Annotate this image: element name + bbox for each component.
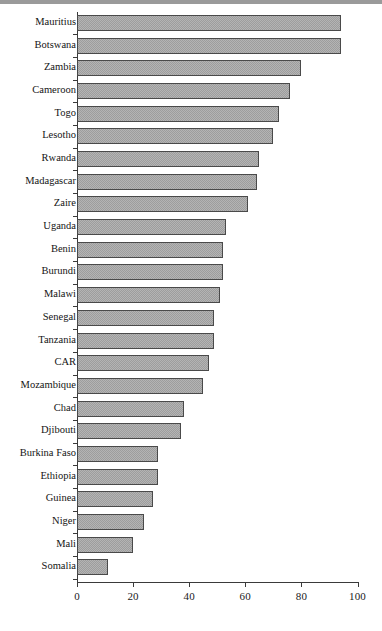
x-axis-line [77,582,358,583]
bar [77,491,153,507]
bar [77,219,226,235]
x-axis-tick-label: 100 [338,590,378,602]
bar [77,196,248,212]
y-axis-tick [73,329,77,330]
bar [77,174,257,190]
category-label: Zambia [44,62,76,73]
x-axis-tick-label: 60 [225,590,265,602]
category-label: Somalia [42,561,76,572]
plot-area: MauritiusBotswanaZambiaCameroonTogoLesot… [0,0,382,631]
y-axis-tick [73,533,77,534]
x-axis-tick [133,582,134,587]
x-axis-tick-label: 20 [113,590,153,602]
y-axis-tick [73,193,77,194]
bar [77,514,144,530]
category-label: Burundi [42,266,76,277]
y-axis-tick [73,420,77,421]
y-axis-tick [73,556,77,557]
bar [77,401,184,417]
bar [77,151,259,167]
category-label: Rwanda [42,153,76,164]
x-axis-tick [301,582,302,587]
bar [77,310,214,326]
bar [77,446,158,462]
bar [77,537,133,553]
category-label: Uganda [43,221,76,232]
bar [77,106,279,122]
y-axis-tick [73,125,77,126]
y-axis-tick [73,579,77,580]
y-axis-tick [73,102,77,103]
x-axis-tick [245,582,246,587]
bar [77,378,203,394]
bar [77,423,181,439]
y-axis-tick [73,80,77,81]
category-label: Chad [54,403,76,414]
bar [77,128,273,144]
y-axis-tick [73,375,77,376]
category-label: Malawi [44,289,76,300]
bar [77,333,214,349]
y-axis-tick [73,238,77,239]
bar [77,287,220,303]
x-axis-tick-label: 40 [169,590,209,602]
y-axis-tick [73,443,77,444]
category-label: Tanzania [38,335,76,346]
bar [77,242,223,258]
x-axis-tick [77,582,78,587]
bar [77,264,223,280]
y-axis-tick [73,148,77,149]
category-label: Zaire [54,198,76,209]
bar-chart: MauritiusBotswanaZambiaCameroonTogoLesot… [0,0,382,631]
y-axis-tick [73,216,77,217]
y-axis-tick [73,170,77,171]
category-label: Botswana [35,40,76,51]
category-label: Benin [51,244,76,255]
x-axis-tick-label: 0 [57,590,97,602]
category-label: Senegal [43,312,76,323]
bar [77,559,108,575]
y-axis-tick [73,57,77,58]
category-label: Madagascar [25,176,76,187]
category-label: Ethiopia [40,471,76,482]
category-label: Niger [52,516,76,527]
y-axis-tick [73,352,77,353]
category-label: Guinea [46,493,76,504]
x-axis-tick-label: 80 [281,590,321,602]
bar [77,15,341,31]
category-label: Mauritius [35,17,76,28]
category-label: CAR [54,357,76,368]
category-label: Lesotho [42,130,76,141]
y-axis-tick [73,397,77,398]
x-axis-tick [189,582,190,587]
y-axis-tick [73,465,77,466]
category-label: Burkina Faso [20,448,76,459]
bar [77,60,301,76]
category-label: Togo [55,108,76,119]
y-axis-tick [73,306,77,307]
bar [77,355,209,371]
category-label: Mozambique [21,380,76,391]
category-label: Cameroon [32,85,76,96]
y-axis-tick [73,284,77,285]
x-axis-tick [358,582,359,587]
bar [77,469,158,485]
y-axis-tick [73,261,77,262]
category-label: Mali [56,539,76,550]
y-axis-tick [73,511,77,512]
bar [77,83,290,99]
y-axis-tick [73,488,77,489]
category-label: Djibouti [41,425,76,436]
y-axis-tick [73,34,77,35]
bar [77,38,341,54]
